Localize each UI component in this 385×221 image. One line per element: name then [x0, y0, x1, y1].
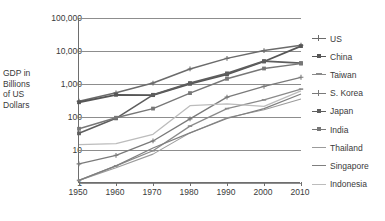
data-point — [114, 116, 118, 120]
legend-label: Indonesia — [330, 180, 367, 189]
x-tick-label: 1960 — [98, 188, 132, 197]
data-point — [262, 67, 266, 71]
legend-label: Taiwan — [330, 71, 356, 80]
legend-item-china[interactable]: China — [312, 48, 384, 66]
legend-label: Japan — [330, 107, 353, 116]
legend-label: Thailand — [330, 144, 363, 153]
data-point — [151, 93, 155, 97]
series-line — [79, 61, 301, 133]
series-lines — [79, 18, 301, 183]
legend-item-indonesia[interactable]: Indonesia — [312, 176, 384, 194]
data-point — [262, 48, 267, 53]
legend-item-thailand[interactable]: Thailand — [312, 139, 384, 157]
series-thailand — [79, 99, 301, 180]
legend-marker-icon — [312, 143, 326, 153]
data-point — [225, 71, 229, 75]
legend-marker-icon — [312, 161, 326, 171]
data-point — [299, 62, 303, 66]
data-point — [225, 77, 229, 81]
y-axis-title: GDP inBillionsof USDollars — [3, 68, 49, 110]
legend-marker-icon — [312, 70, 326, 80]
legend-item-s-korea[interactable]: S. Korea — [312, 85, 384, 103]
data-point — [151, 107, 155, 111]
legend-label: India — [330, 126, 348, 135]
series-taiwan — [77, 89, 303, 180]
x-tick-label: 1950 — [61, 188, 95, 197]
data-point — [188, 91, 192, 95]
data-point — [77, 161, 82, 166]
legend-label: S. Korea — [330, 89, 363, 98]
legend-label: US — [330, 35, 342, 44]
series-china — [77, 44, 303, 104]
plot-area — [78, 18, 300, 183]
legend-item-singapore[interactable]: Singapore — [312, 157, 384, 175]
legend-marker-icon — [312, 89, 326, 99]
series-singapore — [79, 94, 301, 180]
data-point — [225, 56, 230, 61]
series-line — [79, 99, 301, 180]
gdp-line-chart: GDP inBillionsof USDollars 100,00010,000… — [0, 0, 385, 221]
data-point — [188, 81, 192, 85]
data-point — [299, 75, 304, 80]
legend-label: China — [330, 53, 352, 62]
data-point — [114, 153, 119, 158]
legend-item-taiwan[interactable]: Taiwan — [312, 66, 384, 84]
data-point — [151, 81, 156, 86]
legend-marker-icon — [312, 107, 326, 117]
x-tick-label: 1990 — [209, 188, 243, 197]
data-point — [299, 44, 303, 48]
data-point — [77, 127, 81, 131]
x-tick-label: 2000 — [246, 188, 280, 197]
data-point — [77, 131, 81, 135]
legend-marker-icon — [312, 34, 326, 44]
legend-item-us[interactable]: US — [312, 30, 384, 48]
legend-marker-icon — [312, 52, 326, 62]
legend-marker-icon — [312, 125, 326, 135]
chart-legend: USChinaTaiwanS. KoreaJapanIndiaThailandS… — [312, 30, 384, 194]
x-tick-label: 1970 — [135, 188, 169, 197]
data-point — [114, 93, 118, 97]
y-axis-title-line: GDP in — [3, 68, 49, 79]
data-point — [262, 84, 267, 89]
x-tick-label: 1980 — [172, 188, 206, 197]
y-axis-title-line: Dollars — [3, 100, 49, 111]
data-point — [77, 100, 81, 104]
data-point — [262, 59, 266, 63]
y-axis-title-line: of US — [3, 89, 49, 100]
legend-marker-icon — [312, 180, 326, 190]
series-line — [79, 94, 301, 180]
legend-label: Singapore — [330, 162, 369, 171]
x-tick-mark — [301, 182, 302, 186]
legend-item-japan[interactable]: Japan — [312, 103, 384, 121]
data-point — [188, 67, 193, 72]
y-axis-title-line: Billions — [3, 79, 49, 90]
legend-item-india[interactable]: India — [312, 121, 384, 139]
